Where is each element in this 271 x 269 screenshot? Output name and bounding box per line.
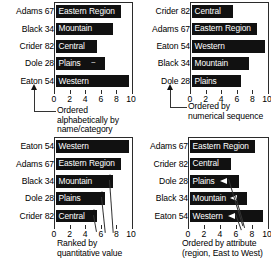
plot-top-border [190, 2, 269, 3]
bar-zone: Central [56, 38, 135, 55]
row-label: Crider 82 [136, 160, 190, 169]
bar[interactable]: Western [56, 140, 129, 153]
bar-zone: Mountain [56, 173, 135, 190]
bar[interactable]: Eastern Region [190, 140, 255, 153]
table-row[interactable]: Eaton 54 Western [0, 138, 135, 155]
bar[interactable]: Mountain [56, 23, 113, 36]
bar-label: Mountain [56, 24, 92, 33]
bar-label: Central [56, 42, 85, 51]
table-row[interactable]: Crider 82 Central [136, 3, 271, 20]
panel-caption-ranked: Ranked by quantitative value [57, 239, 137, 258]
y-axis-line [54, 2, 55, 90]
row-label: Adams 67 [136, 142, 190, 151]
bar-label: Western [190, 212, 223, 221]
bar-zone: Plains [56, 190, 135, 207]
bar[interactable]: Mountain [56, 175, 113, 188]
table-row[interactable]: Crider 82 Central [0, 38, 135, 55]
row-label: Black 34 [136, 59, 192, 68]
plot-right-border [268, 137, 269, 225]
bar-zone: Central [190, 155, 271, 172]
bar[interactable]: Eastern Region [192, 23, 257, 36]
table-row[interactable]: Adams 67 Eastern Region [136, 138, 271, 155]
bar[interactable]: Eastern Region [56, 158, 121, 171]
bar-zone: Mountain [190, 190, 271, 207]
bar-label: Central [192, 7, 221, 16]
plot-top-border [54, 2, 133, 3]
table-row[interactable]: Dole 28 Plains [136, 173, 271, 190]
bar-zone: Central [192, 3, 271, 20]
bar-zone: Eastern Region [56, 3, 135, 20]
tick-label-8: 8 [114, 94, 119, 105]
table-row[interactable]: Adams 67 Eastern Region [0, 155, 135, 172]
x-axis-tick-labels: 0 2 4 6 8 10 [0, 94, 135, 105]
bar-label: Western [192, 42, 225, 51]
bar-zone: Western [56, 138, 135, 155]
bar[interactable]: Central [190, 158, 231, 171]
bar-label: Plains [192, 77, 217, 86]
row-label: Adams 67 [136, 25, 192, 34]
y-axis-line [190, 2, 191, 90]
plot-area-ranked: Eaton 54 Western Adams 67 Eastern Region [0, 135, 135, 231]
bar[interactable]: Plains ~ [56, 57, 105, 70]
bar-zone: Plains [192, 73, 271, 90]
panel-caption-attribute: Ordered by attribute (region, East to We… [182, 239, 271, 258]
panel-ordered-numerical: Crider 82 Central Adams 67 Eastern Regio… [136, 0, 271, 134]
panel-ordered-by-attribute: Adams 67 Eastern Region Crider 82 Centra… [136, 135, 271, 269]
row-label: Dole 28 [136, 77, 192, 86]
bar-label: Plains [56, 194, 81, 203]
y-axis-line [54, 137, 55, 225]
tick-label-6: 6 [98, 94, 103, 105]
bar-label: Mountain [190, 194, 226, 203]
attribute-arrow-left-icon [220, 178, 227, 184]
table-row[interactable]: Eaton 54 Western [0, 73, 135, 90]
plot-top-border [54, 137, 133, 138]
row-label: Eaton 54 [136, 212, 190, 221]
row-label: Dole 28 [136, 177, 190, 186]
bar-label: Eastern Region [56, 7, 115, 16]
table-row[interactable]: Black 34 Mountain [0, 20, 135, 37]
tick-label-4: 4 [83, 94, 88, 105]
bar[interactable]: Plains [192, 75, 241, 88]
table-row[interactable]: Black 34 Mountain [0, 173, 135, 190]
bar-zone: Eastern Region [192, 20, 271, 37]
bar[interactable]: Plains [56, 192, 105, 205]
table-row[interactable]: Eaton 54 Western [136, 38, 271, 55]
plot-area-numerical: Crider 82 Central Adams 67 Eastern Regio… [136, 0, 271, 96]
table-row[interactable]: Crider 82 Central [0, 208, 135, 225]
bar[interactable]: Western [192, 40, 265, 53]
bar[interactable]: Central [192, 5, 233, 18]
bar[interactable]: Eastern Region [56, 5, 121, 18]
bar[interactable]: Central [56, 40, 97, 53]
row-label: Black 34 [0, 25, 56, 34]
table-row[interactable]: Black 34 Mountain [136, 55, 271, 72]
panel-ranked-quantitative: Eaton 54 Western Adams 67 Eastern Region [0, 135, 135, 269]
table-row[interactable]: Dole 28 Plains [0, 190, 135, 207]
bar-label: Western [56, 142, 89, 151]
table-row[interactable]: Eaton 54 Western [136, 208, 271, 225]
table-row[interactable]: Adams 67 Eastern Region [0, 3, 135, 20]
callout-bracket-horizontal [170, 107, 187, 108]
bar[interactable]: Western [56, 75, 129, 88]
plot-right-border [132, 2, 133, 90]
panel-caption-alphabetical: Ordered alphabetically by name/category [57, 106, 135, 135]
bar-label: Central [190, 159, 219, 168]
row-label: Crider 82 [0, 212, 56, 221]
bar-rows-numerical: Crider 82 Central Adams 67 Eastern Regio… [136, 3, 271, 90]
bar-label: Mountain [56, 177, 92, 186]
table-row[interactable]: Black 34 Mountain [136, 190, 271, 207]
bar[interactable]: Western [190, 210, 263, 223]
row-label: Adams 67 [0, 7, 56, 16]
row-label: Dole 28 [0, 59, 56, 68]
callout-bracket-horizontal [34, 111, 56, 112]
table-row[interactable]: Crider 82 Central [136, 155, 271, 172]
plot-right-border [268, 2, 269, 90]
table-row[interactable]: Dole 28 Plains ~ [0, 55, 135, 72]
table-row[interactable]: Adams 67 Eastern Region [136, 20, 271, 37]
table-row[interactable]: Dole 28 Plains [136, 73, 271, 90]
panel-ordered-alphabetically: Adams 67 Eastern Region Black 34 Mountai… [0, 0, 135, 134]
bar[interactable]: Mountain [192, 57, 249, 70]
plot-area-alphabetical: Adams 67 Eastern Region Black 34 Mountai… [0, 0, 135, 96]
plot-right-border [132, 137, 133, 225]
bar-label: Western [56, 77, 89, 86]
bar-label: Eastern Region [190, 142, 249, 151]
